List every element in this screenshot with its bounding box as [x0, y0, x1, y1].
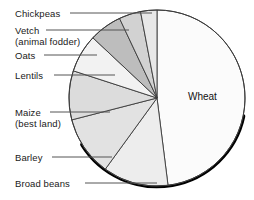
pie-slices-group: WheatBroad beansBarleyMaize (best land)L…: [69, 10, 245, 186]
callout-label-vetch: Vetch (animal fodder): [15, 25, 80, 47]
callout-label-chickpeas: Chickpeas: [15, 8, 60, 19]
callout-label-lentils-text: Lentils: [15, 70, 43, 81]
callout-label-maize-text: Maize: [15, 107, 41, 118]
callout-label-broad-beans: Broad beans: [15, 178, 70, 189]
callout-label-oats-text: Oats: [15, 50, 35, 61]
pie-chart-figure: WheatBroad beansBarleyMaize (best land)L…: [0, 0, 254, 200]
callout-label-lentils: Lentils: [15, 70, 43, 81]
callout-label-chickpeas-text: Chickpeas: [15, 8, 60, 19]
callout-label-maize-subtext: (best land): [15, 118, 61, 129]
callout-label-barley: Barley: [15, 152, 43, 163]
callout-label-maize: Maize (best land): [15, 107, 61, 129]
callout-label-oats: Oats: [15, 50, 35, 61]
slice-label-wheat: Wheat: [188, 91, 217, 102]
callout-label-vetch-text: Vetch: [15, 25, 39, 36]
callout-label-barley-text: Barley: [15, 152, 43, 163]
callout-label-broad-beans-text: Broad beans: [15, 178, 70, 189]
slice-label-wheat-text: Wheat: [188, 91, 217, 102]
callout-label-vetch-subtext: (animal fodder): [15, 36, 80, 47]
